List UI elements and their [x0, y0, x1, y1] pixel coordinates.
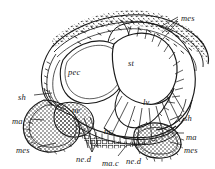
- label-nc: nc: [104, 127, 112, 136]
- label-ma-c: ma.c: [102, 159, 119, 168]
- label-lv: lv: [143, 98, 150, 107]
- label-mes-bottom-left: mes: [16, 146, 30, 155]
- label-sh-right: sh: [184, 114, 192, 123]
- label-st: st: [128, 59, 134, 68]
- label-ma-left: ma: [12, 117, 23, 126]
- label-ne-d-left: ne.d: [76, 155, 91, 164]
- anatomical-figure: mes pec st lv sh ma ne mes ne.d ma.c ne.…: [0, 0, 215, 169]
- label-ne-d-right: ne.d: [126, 157, 141, 166]
- label-mes-top-right: mes: [181, 14, 195, 23]
- label-sh-left: sh: [18, 93, 26, 102]
- label-ma-right: ma: [186, 133, 197, 142]
- illustration-canvas: [0, 0, 215, 169]
- label-ne: ne: [72, 106, 80, 115]
- label-pec: pec: [68, 68, 80, 77]
- label-mes-bottom-right: mes: [184, 146, 198, 155]
